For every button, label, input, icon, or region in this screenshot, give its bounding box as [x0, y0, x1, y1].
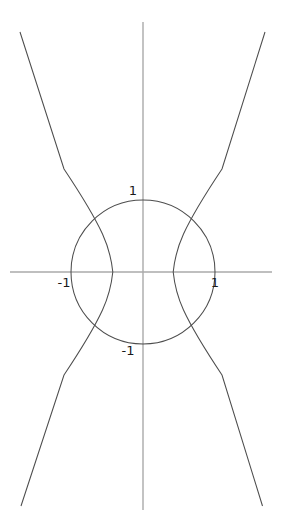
y-tick-label-positive-one: 1 — [129, 183, 137, 198]
plot-svg: 1 -1 1 -1 — [0, 0, 281, 530]
x-tick-label-negative-one: -1 — [58, 275, 71, 290]
axes-group — [10, 22, 272, 510]
hyperbola-left-lower — [21, 272, 113, 506]
y-tick-label-negative-one: -1 — [122, 343, 135, 358]
hyperbola-right-upper — [173, 32, 265, 272]
hyperbola-right-group — [173, 32, 265, 506]
plot-canvas: 1 -1 1 -1 — [0, 0, 281, 530]
hyperbola-right-lower — [173, 272, 262, 506]
x-tick-label-positive-one: 1 — [211, 275, 219, 290]
hyperbola-left-upper — [20, 32, 113, 272]
hyperbola-left-group — [20, 32, 113, 506]
